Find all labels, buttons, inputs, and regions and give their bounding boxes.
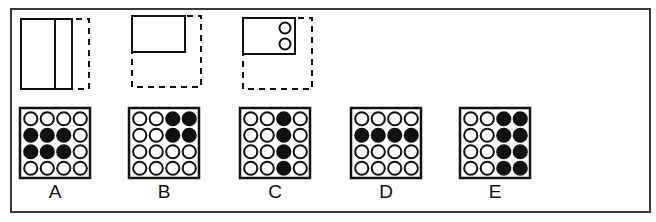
answer-label-d: D bbox=[351, 181, 421, 203]
answer-option-b[interactable] bbox=[129, 108, 199, 178]
question-figure-2 bbox=[132, 16, 201, 87]
answer-label-c: C bbox=[240, 181, 310, 203]
answer-label-b: B bbox=[129, 181, 199, 203]
empty-dot-icon bbox=[166, 162, 179, 175]
question-figure-3 bbox=[243, 18, 312, 89]
filled-dot-icon bbox=[277, 112, 290, 125]
empty-dot-icon bbox=[24, 162, 37, 175]
empty-dot-icon bbox=[244, 145, 257, 158]
hole-circle-icon bbox=[280, 23, 291, 34]
empty-dot-icon bbox=[41, 162, 54, 175]
empty-dot-icon bbox=[481, 112, 494, 125]
empty-dot-icon bbox=[388, 162, 401, 175]
empty-dot-icon bbox=[372, 162, 385, 175]
empty-dot-icon bbox=[388, 145, 401, 158]
empty-dot-icon bbox=[261, 162, 274, 175]
filled-dot-icon bbox=[41, 145, 54, 158]
hole-circle-icon bbox=[280, 39, 291, 50]
filled-dot-icon bbox=[277, 162, 290, 175]
puzzle-figures bbox=[0, 0, 656, 222]
filled-dot-icon bbox=[514, 162, 527, 175]
answer-option-a[interactable] bbox=[20, 108, 90, 178]
filled-dot-icon bbox=[57, 145, 70, 158]
filled-dot-icon bbox=[405, 129, 418, 142]
empty-dot-icon bbox=[372, 145, 385, 158]
empty-dot-icon bbox=[41, 112, 54, 125]
empty-dot-icon bbox=[464, 145, 477, 158]
filled-dot-icon bbox=[497, 162, 510, 175]
empty-dot-icon bbox=[355, 162, 368, 175]
filled-dot-icon bbox=[277, 145, 290, 158]
empty-dot-icon bbox=[133, 112, 146, 125]
empty-dot-icon bbox=[244, 112, 257, 125]
filled-dot-icon bbox=[41, 129, 54, 142]
filled-dot-icon bbox=[497, 129, 510, 142]
empty-dot-icon bbox=[372, 112, 385, 125]
empty-dot-icon bbox=[481, 162, 494, 175]
empty-dot-icon bbox=[74, 112, 87, 125]
empty-dot-icon bbox=[294, 145, 307, 158]
empty-dot-icon bbox=[464, 129, 477, 142]
filled-dot-icon bbox=[166, 112, 179, 125]
empty-dot-icon bbox=[183, 162, 196, 175]
empty-dot-icon bbox=[481, 129, 494, 142]
filled-dot-icon bbox=[277, 129, 290, 142]
empty-dot-icon bbox=[133, 145, 146, 158]
filled-dot-icon bbox=[183, 129, 196, 142]
empty-dot-icon bbox=[261, 112, 274, 125]
empty-dot-icon bbox=[294, 112, 307, 125]
filled-dot-icon bbox=[388, 129, 401, 142]
filled-dot-icon bbox=[166, 129, 179, 142]
empty-dot-icon bbox=[261, 129, 274, 142]
empty-dot-icon bbox=[294, 129, 307, 142]
empty-dot-icon bbox=[405, 162, 418, 175]
filled-dot-icon bbox=[372, 129, 385, 142]
empty-dot-icon bbox=[405, 145, 418, 158]
filled-dot-icon bbox=[497, 112, 510, 125]
answer-label-e: E bbox=[460, 181, 530, 203]
filled-dot-icon bbox=[24, 145, 37, 158]
filled-dot-icon bbox=[57, 129, 70, 142]
filled-dot-icon bbox=[24, 129, 37, 142]
empty-dot-icon bbox=[74, 129, 87, 142]
answer-label-a: A bbox=[20, 181, 90, 203]
filled-dot-icon bbox=[355, 129, 368, 142]
empty-dot-icon bbox=[74, 162, 87, 175]
empty-dot-icon bbox=[133, 162, 146, 175]
answer-option-c[interactable] bbox=[240, 108, 310, 178]
empty-dot-icon bbox=[57, 162, 70, 175]
empty-dot-icon bbox=[355, 112, 368, 125]
empty-dot-icon bbox=[388, 112, 401, 125]
empty-dot-icon bbox=[24, 112, 37, 125]
empty-dot-icon bbox=[74, 145, 87, 158]
empty-dot-icon bbox=[166, 145, 179, 158]
empty-dot-icon bbox=[405, 112, 418, 125]
filled-dot-icon bbox=[183, 112, 196, 125]
solid-rectangle bbox=[21, 19, 72, 89]
empty-dot-icon bbox=[150, 112, 163, 125]
empty-dot-icon bbox=[150, 145, 163, 158]
empty-dot-icon bbox=[150, 162, 163, 175]
empty-dot-icon bbox=[464, 112, 477, 125]
empty-dot-icon bbox=[133, 129, 146, 142]
answer-option-e[interactable] bbox=[460, 108, 530, 178]
filled-dot-icon bbox=[514, 112, 527, 125]
empty-dot-icon bbox=[481, 145, 494, 158]
empty-dot-icon bbox=[150, 129, 163, 142]
empty-dot-icon bbox=[294, 162, 307, 175]
answer-option-d[interactable] bbox=[351, 108, 421, 178]
empty-dot-icon bbox=[464, 162, 477, 175]
filled-dot-icon bbox=[514, 145, 527, 158]
filled-dot-icon bbox=[514, 129, 527, 142]
empty-dot-icon bbox=[57, 112, 70, 125]
empty-dot-icon bbox=[244, 162, 257, 175]
empty-dot-icon bbox=[355, 145, 368, 158]
solid-rectangle bbox=[132, 16, 185, 52]
empty-dot-icon bbox=[183, 145, 196, 158]
question-figure-1 bbox=[21, 19, 89, 89]
filled-dot-icon bbox=[497, 145, 510, 158]
empty-dot-icon bbox=[244, 129, 257, 142]
empty-dot-icon bbox=[261, 145, 274, 158]
puzzle-stage: ABCDE bbox=[0, 0, 656, 222]
